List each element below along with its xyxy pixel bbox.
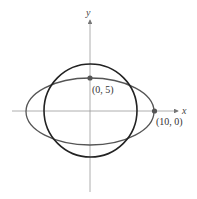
ellipse-circle-diagram: x y (0, 5) (10, 0) xyxy=(0,0,197,199)
point-0-5 xyxy=(87,75,92,80)
point-10-0 xyxy=(152,108,157,113)
x-axis-label: x xyxy=(181,105,187,116)
y-axis-label: y xyxy=(85,7,91,18)
point-label-0-5: (0, 5) xyxy=(92,84,114,96)
point-label-10-0: (10, 0) xyxy=(156,116,183,128)
